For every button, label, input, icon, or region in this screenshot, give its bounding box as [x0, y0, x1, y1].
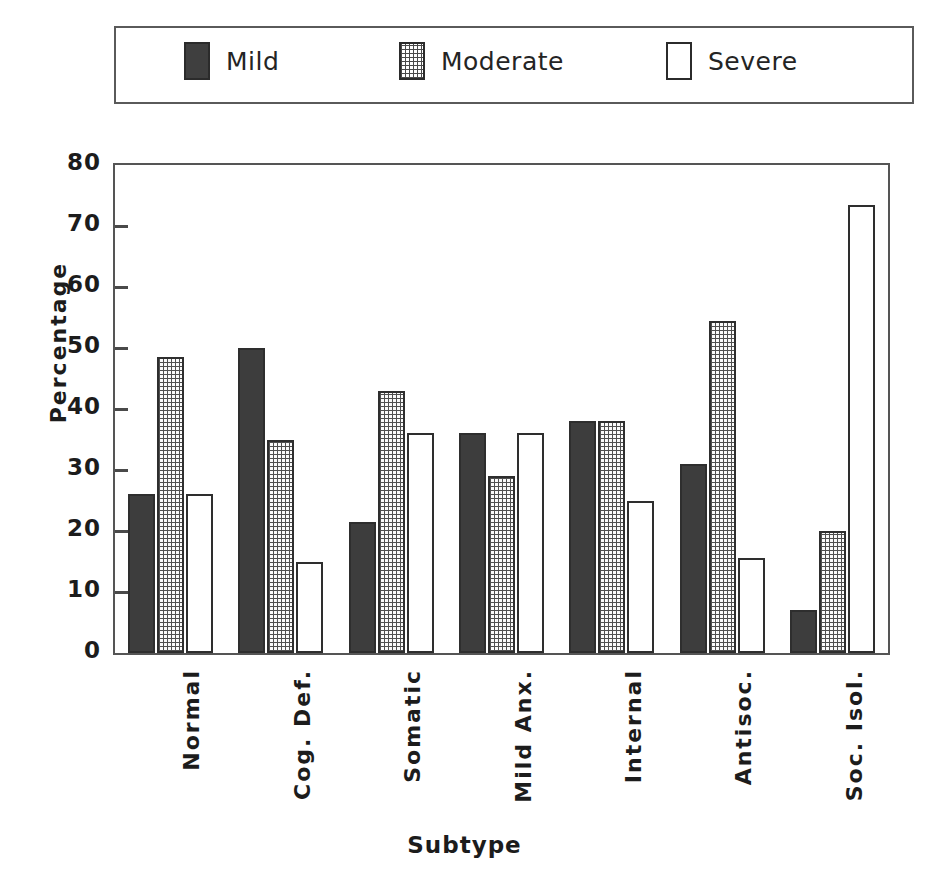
legend-swatch-moderate-icon	[399, 42, 425, 80]
bar-cog-def-mild	[238, 348, 265, 653]
legend-item-moderate: Moderate	[399, 42, 564, 80]
bar-internal-severe	[627, 501, 654, 654]
legend-item-severe: Severe	[666, 42, 798, 80]
x-axis-ticklabel: Normal	[179, 669, 204, 839]
legend-swatch-severe-icon	[666, 42, 692, 80]
legend-label-severe: Severe	[708, 47, 798, 76]
plot-area	[115, 165, 888, 653]
y-axis-tick	[115, 591, 128, 594]
x-axis-ticklabel: Antisoc.	[731, 669, 756, 839]
bar-internal-mild	[569, 421, 596, 653]
bar-normal-mild	[128, 494, 155, 653]
y-axis-ticklabel: 70	[41, 212, 101, 235]
legend-item-mild: Mild	[184, 42, 279, 80]
x-axis-ticklabel: Internal	[621, 669, 646, 839]
x-axis-ticklabel: Mild Anx.	[511, 669, 536, 839]
bar-antisoc-moderate	[709, 321, 736, 653]
y-axis-ticklabel: 80	[41, 151, 101, 174]
bar-soc-isol-mild	[790, 610, 817, 653]
bar-internal-moderate	[598, 421, 625, 653]
bar-somatic-severe	[407, 433, 434, 653]
plot-frame	[113, 163, 890, 655]
x-axis-title: Subtype	[0, 832, 929, 858]
y-axis-ticklabel: 30	[41, 456, 101, 479]
y-axis-title: Percentage	[46, 238, 71, 448]
y-axis-tick	[115, 347, 128, 350]
y-axis-tick	[115, 469, 128, 472]
y-axis-ticklabel: 10	[41, 578, 101, 601]
bar-soc-isol-severe	[848, 205, 875, 653]
y-axis-tick	[115, 225, 128, 228]
y-axis-tick	[115, 408, 128, 411]
bar-normal-severe	[186, 494, 213, 653]
bar-mild-anx-severe	[517, 433, 544, 653]
x-axis-ticklabel: Soc. Isol.	[842, 669, 867, 839]
y-axis-ticklabel: 20	[41, 517, 101, 540]
bar-normal-moderate	[157, 357, 184, 653]
y-axis-tick	[115, 286, 128, 289]
y-axis-ticklabel: 0	[41, 639, 101, 662]
bar-cog-def-moderate	[267, 440, 294, 654]
bar-mild-anx-moderate	[488, 476, 515, 653]
x-axis-ticklabel: Somatic	[400, 669, 425, 839]
x-axis-ticklabels: NormalCog. Def.SomaticMild Anx.InternalA…	[113, 655, 890, 825]
bar-antisoc-mild	[680, 464, 707, 653]
bar-somatic-moderate	[378, 391, 405, 653]
legend-label-moderate: Moderate	[441, 47, 564, 76]
x-axis-ticklabel: Cog. Def.	[290, 669, 315, 839]
bar-mild-anx-mild	[459, 433, 486, 653]
bar-soc-isol-moderate	[819, 531, 846, 653]
y-axis-tick	[115, 530, 128, 533]
chart-legend: Mild Moderate Severe	[114, 26, 914, 104]
bar-somatic-mild	[349, 522, 376, 653]
legend-swatch-mild-icon	[184, 42, 210, 80]
bar-cog-def-severe	[296, 562, 323, 654]
bar-antisoc-severe	[738, 558, 765, 653]
legend-label-mild: Mild	[226, 47, 279, 76]
